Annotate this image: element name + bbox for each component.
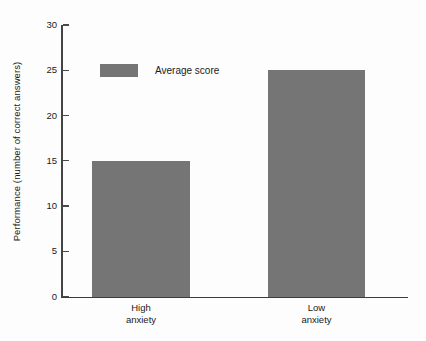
legend-label-average-score: Average score: [155, 65, 219, 76]
x-axis-label-line: High: [96, 302, 186, 314]
x-axis-label-line: anxiety: [96, 314, 186, 326]
bar-low-anxiety[interactable]: [268, 70, 365, 296]
x-axis-label-line: anxiety: [272, 314, 362, 326]
chart-legend: Average score: [100, 64, 219, 77]
y-tick-label: 0: [27, 292, 57, 302]
x-axis-label-low-anxiety: Lowanxiety: [272, 302, 362, 325]
y-tick-label: 5: [27, 246, 57, 256]
y-axis-title: Performance (number of correct answers): [6, 3, 28, 300]
x-axis-line: [61, 297, 408, 299]
x-axis-label-line: Low: [272, 302, 362, 314]
y-tick-label: 20: [27, 111, 57, 121]
y-tick-label: 30: [27, 20, 57, 30]
legend-swatch-average-score: [100, 64, 138, 77]
bar-high-anxiety[interactable]: [92, 161, 190, 297]
x-axis-label-high-anxiety: Highanxiety: [96, 302, 186, 325]
y-tick-label: 15: [27, 156, 57, 166]
y-tick-label: 10: [27, 201, 57, 211]
bar-chart: Performance (number of correct answers) …: [0, 0, 426, 341]
y-tick-label: 25: [27, 65, 57, 75]
